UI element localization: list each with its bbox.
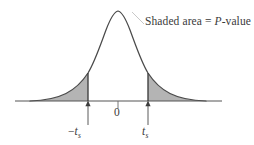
- shaded-area-text-pre: Shaded area =: [145, 15, 215, 27]
- t-symbol-right: t: [142, 125, 145, 137]
- annotation-leader-line: [132, 12, 144, 24]
- shaded-area-text-post: -value: [222, 15, 251, 27]
- t-subscript-right: s: [146, 131, 149, 140]
- p-value-symbol: P: [215, 15, 222, 27]
- axis-label-zero: 0: [114, 106, 120, 118]
- t-subscript-left: s: [78, 131, 81, 140]
- axis-label-positive-ts: ts: [142, 125, 148, 137]
- right-critical-arrow: [145, 101, 150, 126]
- shaded-area-annotation: Shaded area = P-value: [145, 15, 251, 27]
- axis-label-negative-ts: −ts: [68, 125, 81, 137]
- t-distribution-figure: Shaded area = P-value 0 −ts ts: [0, 0, 254, 145]
- left-critical-arrow: [85, 101, 90, 126]
